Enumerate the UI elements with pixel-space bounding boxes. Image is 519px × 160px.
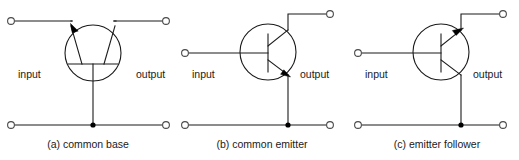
output-label-b: output	[300, 68, 329, 80]
upper-arrowhead-c	[452, 28, 463, 35]
collector-lead-a	[104, 26, 115, 64]
terminal-output-top-b[interactable]	[327, 11, 334, 18]
emitter-arrowhead-a	[71, 24, 79, 33]
terminal-input-bottom-c[interactable]	[355, 122, 362, 129]
input-label-a: input	[18, 68, 41, 80]
caption-a: (a) common base	[47, 138, 129, 150]
terminal-output-bottom-b[interactable]	[327, 122, 334, 129]
terminal-input-top-b[interactable]	[182, 50, 189, 57]
panel-common-base: input output (a) common base	[8, 18, 170, 150]
terminal-input-bottom-b[interactable]	[182, 122, 189, 129]
terminal-input-bottom-a[interactable]	[8, 122, 15, 129]
input-label-b: input	[192, 68, 215, 80]
panel-common-emitter: input output (b) common emitter	[182, 11, 334, 150]
junction-dot-a	[90, 122, 95, 127]
terminal-input-top-a[interactable]	[8, 18, 15, 25]
input-label-c: input	[365, 68, 388, 80]
caption-b: (b) common emitter	[216, 138, 308, 150]
collector-wire-b	[288, 14, 326, 30]
terminal-output-top-c[interactable]	[500, 11, 507, 18]
lower-lead-c	[441, 60, 461, 75]
collector-lead-b	[268, 30, 288, 46]
circuit-diagram-canvas: input output (a) common base	[0, 0, 519, 160]
panel-emitter-follower: input output (c) emitter follower	[355, 11, 507, 150]
junction-dot-c	[458, 122, 463, 127]
caption-c: (c) emitter follower	[394, 138, 481, 150]
output-label-a: output	[136, 68, 165, 80]
output-label-c: output	[473, 68, 502, 80]
terminal-output-top-a[interactable]	[163, 18, 170, 25]
transistor-configurations-figure: input output (a) common base	[0, 0, 519, 160]
terminal-output-bottom-a[interactable]	[163, 122, 170, 129]
terminal-input-top-c[interactable]	[355, 50, 362, 57]
junction-dot-b	[285, 122, 290, 127]
upper-wire-c	[461, 14, 499, 30]
terminal-output-bottom-c[interactable]	[500, 122, 507, 129]
